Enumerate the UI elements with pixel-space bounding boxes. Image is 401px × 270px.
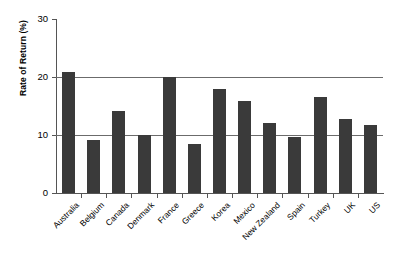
x-tick-label: France bbox=[156, 200, 182, 226]
x-tick-mark bbox=[358, 194, 359, 198]
bar bbox=[163, 77, 176, 193]
y-tick-label: 20 bbox=[37, 71, 48, 83]
y-tick-mark bbox=[52, 193, 56, 194]
y-tick-label: 0 bbox=[43, 187, 48, 199]
bars-series bbox=[56, 19, 383, 193]
x-tick-mark bbox=[81, 194, 82, 198]
x-tick-mark bbox=[131, 194, 132, 198]
x-tick-mark bbox=[257, 194, 258, 198]
bar bbox=[314, 97, 327, 193]
x-tick-label: Spain bbox=[285, 200, 307, 222]
y-tick-label: 10 bbox=[37, 129, 48, 141]
bar-chart: Rate of Return (%) 0102030 AustraliaBelg… bbox=[0, 0, 401, 270]
bar bbox=[288, 137, 301, 193]
bar bbox=[339, 119, 352, 193]
bar bbox=[112, 111, 125, 193]
x-tick-label: Greece bbox=[180, 200, 206, 226]
x-tick-label: UK bbox=[342, 200, 357, 215]
x-tick-mark bbox=[232, 194, 233, 198]
bar bbox=[238, 101, 251, 193]
x-tick-label: Australia bbox=[51, 200, 81, 230]
bar bbox=[138, 135, 151, 193]
x-tick-mark bbox=[207, 194, 208, 198]
x-axis-line bbox=[56, 193, 384, 194]
bar bbox=[62, 72, 75, 193]
bar bbox=[188, 144, 201, 193]
x-tick-mark bbox=[282, 194, 283, 198]
x-tick-label: US bbox=[367, 200, 382, 215]
y-axis-title: Rate of Return (%) bbox=[18, 0, 28, 123]
x-tick-mark bbox=[182, 194, 183, 198]
x-tick-mark bbox=[157, 194, 158, 198]
bar bbox=[263, 123, 276, 193]
x-tick-label: Belgium bbox=[77, 200, 105, 228]
x-tick-label: Turkey bbox=[307, 200, 332, 225]
bar bbox=[87, 140, 100, 193]
y-tick-label: 30 bbox=[37, 13, 48, 25]
x-tick-mark bbox=[106, 194, 107, 198]
x-tick-mark bbox=[308, 194, 309, 198]
x-tick-mark bbox=[333, 194, 334, 198]
x-tick-label: Denmark bbox=[125, 200, 156, 231]
bar bbox=[213, 89, 226, 193]
bar bbox=[364, 125, 377, 193]
x-tick-label: Korea bbox=[209, 200, 232, 223]
